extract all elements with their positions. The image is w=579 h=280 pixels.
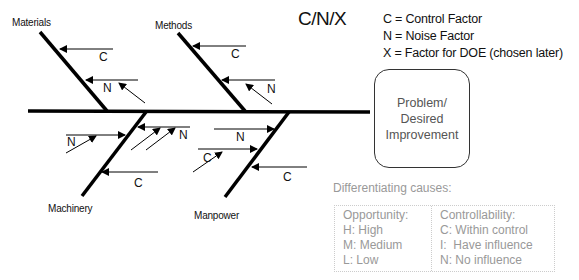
problem-line-1: Problem/ <box>386 95 459 111</box>
problem-line-3: Improvement <box>386 127 459 143</box>
problem-line-2: Desired <box>386 111 459 127</box>
marker-materials-n: N <box>103 81 112 95</box>
marker-materials-c: C <box>99 50 108 64</box>
marker-manpower-n: N <box>236 130 245 144</box>
arrow-materials-n-diag <box>119 83 145 103</box>
bone-machinery <box>66 112 190 196</box>
bone-materials <box>40 32 145 111</box>
opportunity-medium: M: Medium <box>343 238 431 253</box>
diagram-title: C/N/X <box>298 8 346 30</box>
spine-line <box>28 111 370 112</box>
legend-doe-factor: X = Factor for DOE (chosen later) <box>383 45 563 62</box>
controllability-no-influence: N: No influence <box>440 253 554 268</box>
controllability-header: Controllability: <box>440 208 554 223</box>
marker-manpower-c-right: C <box>283 170 292 184</box>
arrow-machinery-diag-2 <box>146 128 175 150</box>
differentiating-causes-title: Differentiating causes: <box>333 181 452 195</box>
opportunity-high: H: High <box>343 223 431 238</box>
bone-methods <box>178 33 275 111</box>
legend-control-factor: C = Control Factor <box>383 11 563 28</box>
marker-manpower-c-left: C <box>203 151 212 165</box>
marker-machinery-n-left: N <box>67 135 76 149</box>
controllability-column: Controllability: C: Within control I: Ha… <box>432 206 554 271</box>
arrow-machinery-diag-1 <box>131 128 160 150</box>
opportunity-header: Opportunity: <box>343 208 431 223</box>
category-manpower: Manpower <box>194 210 239 221</box>
factor-legend: C = Control Factor N = Noise Factor X = … <box>383 11 563 62</box>
controllability-within-control: C: Within control <box>440 223 554 238</box>
marker-methods-c: C <box>231 47 240 61</box>
category-materials: Materials <box>12 17 51 28</box>
category-machinery: Machinery <box>48 203 92 214</box>
category-methods: Methods <box>155 20 192 31</box>
legend-noise-factor: N = Noise Factor <box>383 28 563 45</box>
marker-machinery-n-right: N <box>179 128 188 142</box>
marker-methods-n: N <box>267 82 276 96</box>
opportunity-column: Opportunity: H: High M: Medium L: Low <box>335 206 432 271</box>
problem-box: Problem/ Desired Improvement <box>374 69 470 168</box>
controllability-have-influence: I: Have influence <box>440 238 554 253</box>
differentiating-causes-table: Opportunity: H: High M: Medium L: Low Co… <box>334 205 555 272</box>
opportunity-low: L: Low <box>343 253 431 268</box>
marker-machinery-c: C <box>134 176 143 190</box>
